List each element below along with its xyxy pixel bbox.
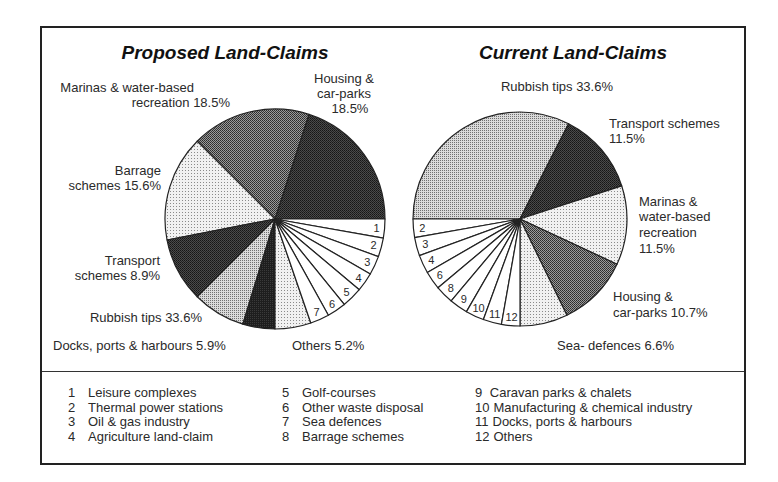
- current-pie: 234689101112: [413, 112, 627, 326]
- legend-item: 7Sea defences: [282, 415, 423, 430]
- proposed-title: Proposed Land-Claims: [122, 42, 329, 63]
- figure-frame: Proposed Land-Claims Current Land-Claims…: [40, 26, 746, 465]
- label-proposed-marinas-2: recreation 18.5%: [132, 95, 231, 110]
- slice-number-label: 11: [489, 308, 500, 320]
- legend-item: 5Golf-courses: [282, 386, 423, 401]
- label-current-rubbish: Rubbish tips 33.6%: [501, 79, 613, 94]
- legend-item: 3Oil & gas industry: [68, 415, 223, 430]
- legend-item: 1Leisure complexes: [68, 386, 223, 401]
- label-current-housing-2: car-parks 10.7%: [613, 305, 708, 320]
- legend-item: 10Manufacturing & chemical industry: [475, 401, 692, 416]
- label-current-marinas-2: water-based: [638, 209, 711, 224]
- slice-number-label: 10: [472, 302, 484, 314]
- legend-item: 12Others: [475, 430, 692, 445]
- legend-column-1: 1Leisure complexes 2Thermal power statio…: [68, 386, 223, 444]
- slice-number-label: 5: [343, 286, 349, 298]
- label-proposed-rubbish: Rubbish tips 33.6%: [90, 310, 202, 325]
- legend: 1Leisure complexes 2Thermal power statio…: [42, 386, 744, 456]
- label-current-transport-1: Transport schemes: [609, 116, 720, 131]
- label-proposed-marinas-1: Marinas & water-based: [60, 80, 194, 95]
- pie-charts: Proposed Land-Claims Current Land-Claims…: [42, 28, 748, 371]
- label-proposed-barrage-2: schemes 15.6%: [69, 178, 162, 193]
- label-proposed-docks: Docks, ports & harbours 5.9%: [53, 338, 226, 353]
- legend-item: 8Barrage schemes: [282, 430, 423, 445]
- current-title: Current Land-Claims: [479, 42, 667, 63]
- label-proposed-others: Others 5.2%: [292, 338, 365, 353]
- label-proposed-barrage-1: Barrage: [115, 163, 161, 178]
- slice-number-label: 4: [356, 272, 362, 284]
- slice-number-label: 6: [329, 298, 335, 310]
- legend-item: 2Thermal power stations: [68, 401, 223, 416]
- legend-item: 6Other waste disposal: [282, 401, 423, 416]
- legend-item: 11Docks, ports & harbours: [475, 415, 692, 430]
- slice-number-label: 8: [448, 282, 454, 294]
- legend-column-2: 5Golf-courses 6Other waste disposal 7Sea…: [282, 386, 423, 444]
- label-proposed-housing-2: car-parks: [317, 86, 372, 101]
- slice-number-label: 7: [313, 306, 319, 318]
- label-current-housing-1: Housing &: [613, 289, 673, 304]
- slice-number-label: 4: [428, 254, 434, 266]
- slice-number-label: 1: [374, 222, 380, 234]
- slice-number-label: 12: [505, 311, 517, 323]
- label-proposed-housing-3: 18.5%: [332, 101, 369, 116]
- slice-number-label: 6: [437, 269, 443, 281]
- label-current-marinas-4: 11.5%: [639, 241, 675, 256]
- slice-number-label: 9: [461, 293, 467, 305]
- label-proposed-transport-1: Transport: [105, 253, 161, 268]
- label-current-marinas-3: recreation: [639, 225, 697, 240]
- legend-column-3: 9 Caravan parks & chalets 10Manufacturin…: [475, 386, 692, 444]
- legend-divider: [42, 371, 744, 372]
- legend-item: 9 Caravan parks & chalets: [475, 386, 692, 401]
- slice-number-label: 3: [364, 256, 370, 268]
- label-proposed-transport-2: schemes 8.9%: [75, 268, 161, 283]
- legend-item: 4Agriculture land-claim: [68, 430, 223, 445]
- slice-number-label: 3: [422, 238, 428, 250]
- proposed-pie: 1234567: [165, 109, 385, 329]
- label-current-marinas-1: Marinas &: [639, 194, 698, 209]
- label-current-transport-2: 11.5%: [609, 131, 645, 146]
- slice-number-label: 2: [370, 239, 376, 251]
- slice-number-label: 2: [419, 222, 425, 234]
- label-proposed-housing-1: Housing &: [314, 71, 374, 86]
- label-current-sea-defences: Sea- defences 6.6%: [557, 338, 675, 353]
